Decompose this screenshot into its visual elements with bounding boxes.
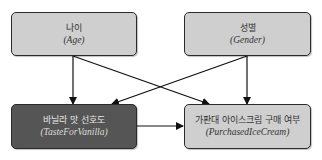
node-taste-sublabel: (TasteForVanilla) bbox=[40, 126, 107, 139]
edge-gender-taste bbox=[112, 56, 247, 104]
node-purchased-sublabel: (PurchasedIceCream) bbox=[206, 126, 290, 139]
edge-age-purchased bbox=[73, 56, 209, 104]
node-age: 나이 (Age) bbox=[11, 12, 137, 56]
node-purchased-ice-cream: 가판대 아이스크림 구매 여부 (PurchasedIceCream) bbox=[184, 104, 311, 149]
node-purchased-label: 가판대 아이스크림 구매 여부 bbox=[195, 114, 300, 126]
node-gender-label: 성별 bbox=[240, 22, 256, 34]
node-gender-sublabel: (Gender) bbox=[230, 34, 265, 47]
node-age-sublabel: (Age) bbox=[63, 34, 84, 47]
node-age-label: 나이 bbox=[66, 22, 82, 34]
node-gender: 성별 (Gender) bbox=[184, 12, 311, 56]
node-taste-label: 바닐라 맛 선호도 bbox=[43, 114, 105, 126]
node-taste-for-vanilla: 바닐라 맛 선호도 (TasteForVanilla) bbox=[11, 104, 137, 149]
